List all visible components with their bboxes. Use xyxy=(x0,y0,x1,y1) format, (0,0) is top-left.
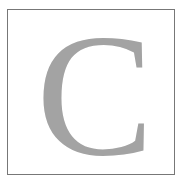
drop-cap-letter: C xyxy=(0,0,184,186)
